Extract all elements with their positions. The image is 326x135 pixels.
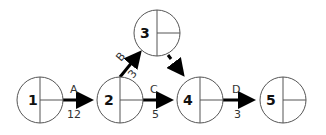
node-2-label: 2 xyxy=(104,92,114,108)
node-5: 5 xyxy=(260,77,306,123)
node-2: 2 xyxy=(97,77,143,123)
node-4: 4 xyxy=(177,77,223,123)
node-4-label: 4 xyxy=(183,92,193,108)
activity-d-duration: 3 xyxy=(234,108,241,121)
activity-c-name: C xyxy=(150,83,158,96)
node-1-label: 1 xyxy=(28,92,38,108)
activity-b-name: B xyxy=(113,50,128,64)
activity-d-name: D xyxy=(232,83,240,96)
node-5-label: 5 xyxy=(266,92,276,108)
node-3-label: 3 xyxy=(140,25,150,41)
network-diagram: 1 2 3 4 5 A 12 B 3 C 5 D 3 xyxy=(0,0,326,135)
activity-c-duration: 5 xyxy=(152,108,159,121)
dummy-activity-arrow xyxy=(168,55,181,72)
node-1: 1 xyxy=(17,77,63,123)
node-3: 3 xyxy=(134,10,180,56)
activity-a-duration: 12 xyxy=(67,108,81,121)
activity-a-name: A xyxy=(70,83,78,96)
